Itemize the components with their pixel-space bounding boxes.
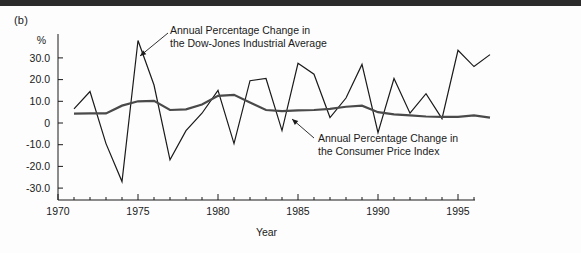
y-tick-label: 0 [44, 117, 50, 129]
y-tick-label: 20.0 [30, 73, 51, 85]
y-tick-label: 30.0 [30, 52, 51, 64]
x-tick-label: 1975 [126, 205, 150, 217]
y-tick-label: 10.0 [30, 95, 51, 107]
cpi-annotation-line2: the Consumer Price Index [318, 145, 440, 157]
x-axis-title: Year [256, 226, 278, 238]
x-tick-label: 1985 [286, 205, 310, 217]
x-tick-label: 1990 [366, 205, 390, 217]
line-chart: 30.020.010.00-10.0-20.0-30.0 19701975198… [0, 0, 581, 253]
axis-labels-group: %Year [37, 34, 278, 238]
y-tick-label: -10.0 [26, 138, 50, 150]
series-line-consumer-price-index [74, 95, 490, 118]
x-tick-label: 1970 [46, 205, 70, 217]
annotations-group: Annual Percentage Change inthe Dow-Jones… [140, 24, 458, 157]
x-tick-label: 1995 [446, 205, 470, 217]
figure-root: (b) 30.020.010.00-10.0-20.0-30.0 1970197… [0, 0, 581, 253]
y-axis-ticks: 30.020.010.00-10.0-20.0-30.0 [26, 52, 63, 194]
y-tick-label: -20.0 [26, 160, 50, 172]
dow-jones-annotation-line1: Annual Percentage Change in [170, 24, 310, 36]
y-tick-label: -30.0 [26, 182, 50, 194]
cpi-annotation-line1: Annual Percentage Change in [318, 132, 458, 144]
x-axis-ticks: 197019751980198519901995 [46, 194, 474, 217]
y-axis-title: % [37, 34, 46, 46]
dow-jones-annotation-line2: the Dow-Jones Industrial Average [170, 37, 327, 49]
x-tick-label: 1980 [206, 205, 230, 217]
series-group [74, 41, 490, 182]
axes-group [58, 34, 475, 200]
